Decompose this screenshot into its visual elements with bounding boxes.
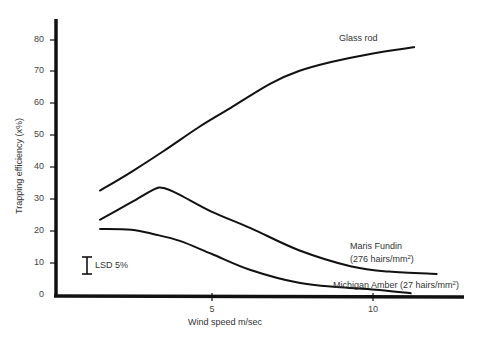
maris-fundin-label: Maris Fundin (276 hairs/mm2) [350,241,414,265]
y-tick-60: 60 [26,97,44,107]
x-tick-10: 10 [363,304,383,314]
y-tick-10: 10 [26,257,44,267]
lsd-error-bar [82,257,92,274]
x-tick-5: 5 [202,304,222,314]
y-tick-40: 40 [26,161,44,171]
x-axis [54,296,464,297]
michigan-amber-label: Michigan Amber (27 hairs/mm2) [333,278,459,291]
y-tick-0: 0 [26,289,44,299]
y-tick-50: 50 [26,129,44,139]
y-tick-80: 80 [26,34,44,44]
glass-rod-curve [99,47,415,191]
y-tick-30: 30 [26,193,44,203]
glass-rod-label: Glass rod [339,33,378,44]
x-axis-label: Wind speed m/sec [188,317,262,328]
y-tick-20: 20 [26,225,44,235]
y-axis-label: Trapping efficiency (x%) [14,118,24,214]
y-tick-70: 70 [26,65,44,75]
lsd-label: LSD 5% [95,260,128,271]
